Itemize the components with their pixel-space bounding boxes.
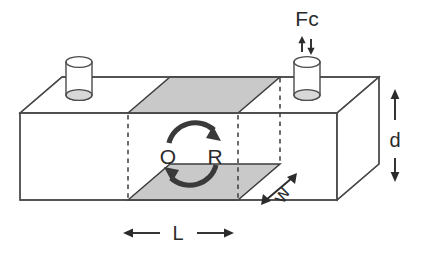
left-cylinder: [66, 57, 92, 101]
right-cylinder: [294, 57, 320, 101]
left-cylinder-top-ellipse: [66, 57, 92, 68]
diagram-root: Fc O R d: [0, 0, 425, 253]
rotation-label-r: R: [207, 145, 222, 168]
force-direction-arrows-icon: [298, 36, 314, 55]
left-cylinder-bottom-ellipse: [66, 90, 92, 101]
force-label: Fc: [295, 7, 318, 30]
dimension-depth-label: d: [389, 129, 400, 151]
right-cylinder-top-ellipse: [294, 57, 320, 68]
rotation-label-o: O: [160, 145, 176, 168]
right-cylinder-bottom-ellipse: [294, 90, 320, 101]
dimension-length-label: L: [172, 222, 183, 244]
beam-shear-diagram: Fc O R d: [0, 0, 425, 253]
